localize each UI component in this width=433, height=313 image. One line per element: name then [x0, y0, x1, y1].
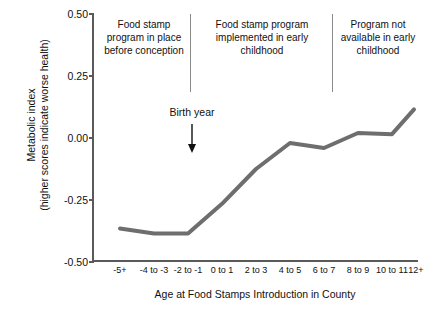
y-tick-label-4: -0.50	[64, 256, 88, 268]
y-tick-label-1: 0.25	[68, 70, 88, 82]
y-tick-label-0: 0.50	[68, 8, 88, 20]
x-tick-label-9: 12+	[408, 265, 423, 275]
x-tick-label-1: -4 to -3	[140, 265, 169, 275]
x-tick-label-3: 0 to 1	[211, 265, 234, 275]
y-axis-title: Metabolic index (higher scores indicate …	[25, 25, 51, 225]
y-tick-label-2: 0.00	[68, 132, 88, 144]
x-tick-label-2: -2 to -1	[174, 265, 203, 275]
y-axis-title-line2: (higher scores indicate worse health)	[38, 25, 51, 225]
metabolic-index-chart: Metabolic index (higher scores indicate …	[0, 0, 433, 313]
x-tick-label-5: 4 to 5	[279, 265, 302, 275]
plot-area: 0.50 0.25 0.00 -0.25 -0.50 Food stamp pr…	[92, 14, 418, 262]
data-series-line	[94, 14, 420, 262]
series-polyline	[120, 109, 414, 233]
x-axis-title: Age at Food Stamps Introduction in Count…	[92, 288, 418, 300]
x-tick-label-8: 10 to 11	[376, 265, 408, 275]
x-tick-label-7: 8 to 9	[347, 265, 370, 275]
y-tick-label-3: -0.25	[64, 194, 88, 206]
x-tick-label-6: 6 to 7	[313, 265, 336, 275]
x-tick-label-4: 2 to 3	[245, 265, 268, 275]
y-axis-title-line1: Metabolic index	[25, 25, 38, 225]
x-tick-label-0: -5+	[113, 265, 126, 275]
